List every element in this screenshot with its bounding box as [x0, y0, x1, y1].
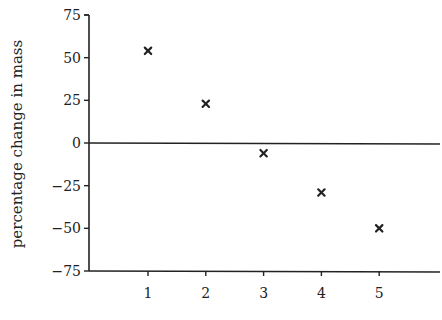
x-tick-label: 5	[375, 285, 384, 301]
data-point	[318, 189, 324, 195]
y-ticks: 7550250−25−50−75	[51, 7, 89, 279]
x-ticks: 12345	[144, 271, 384, 301]
x-tick-label: 1	[144, 285, 153, 301]
x-tick-label: 4	[317, 285, 326, 301]
scatter-chart: 7550250−25−50−75 12345 percentage change…	[0, 0, 442, 320]
x-tick-label: 2	[201, 285, 210, 301]
y-tick-label: −50	[51, 220, 81, 236]
y-tick-label: −25	[51, 178, 81, 194]
x-axis-line	[89, 271, 440, 272]
y-tick-label: −75	[51, 263, 81, 279]
data-points	[145, 48, 383, 232]
y-tick-label: 50	[63, 50, 81, 66]
axes	[84, 15, 440, 272]
y-tick-label: 25	[63, 92, 81, 108]
y-tick-label: 0	[72, 135, 81, 151]
y-axis-title: percentage change in mass	[8, 40, 26, 249]
data-point	[260, 150, 266, 156]
data-point	[376, 225, 382, 231]
x-tick-label: 3	[259, 285, 268, 301]
data-point	[145, 48, 151, 54]
data-point	[203, 101, 209, 107]
y-tick-label: 75	[63, 7, 81, 23]
zero-line	[89, 143, 440, 144]
